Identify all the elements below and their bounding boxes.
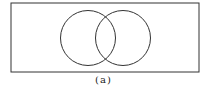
figure-caption: (a) (0, 74, 207, 85)
universal-set-rectangle (11, 3, 199, 72)
left-set-circle (61, 11, 116, 66)
right-set-circle (96, 11, 151, 66)
